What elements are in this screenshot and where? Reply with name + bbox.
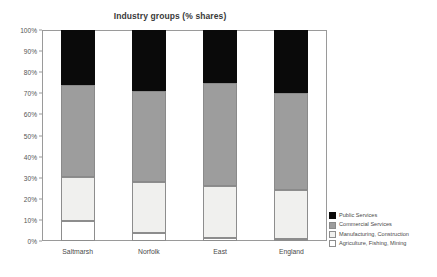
legend-swatch-icon — [329, 231, 336, 238]
bar-segment[interactable] — [132, 233, 166, 241]
legend-swatch-icon — [329, 212, 336, 219]
y-axis-tick-label: 80% — [24, 69, 37, 76]
y-axis-tick-label: 90% — [24, 48, 37, 55]
bar-segment[interactable] — [61, 221, 95, 241]
legend-item[interactable]: Public Services — [329, 211, 435, 220]
bar-segment[interactable] — [274, 93, 308, 190]
bar-segment[interactable] — [203, 186, 237, 238]
legend-item-label: Manufacturing, Construction — [339, 232, 409, 238]
bar-segment[interactable] — [203, 30, 237, 83]
legend: Public ServicesCommercial ServicesManufa… — [329, 211, 435, 249]
bar-segment[interactable] — [61, 85, 95, 177]
stacked-bar[interactable] — [61, 30, 95, 241]
stacked-bar[interactable] — [203, 30, 237, 241]
y-axis-tick-label: 0% — [27, 238, 37, 245]
bar-segment[interactable] — [61, 177, 95, 221]
x-axis-category-label: England — [279, 248, 304, 255]
bar-segment[interactable] — [61, 30, 95, 85]
legend-item[interactable]: Commercial Services — [329, 220, 435, 229]
y-axis: 0%10%20%30%40%50%60%70%80%90%100% — [0, 30, 42, 241]
bar-segment[interactable] — [132, 182, 166, 233]
chart-title: Industry groups (% shares) — [0, 11, 340, 21]
y-axis-tick-label: 100% — [20, 27, 37, 34]
bar-segment[interactable] — [203, 238, 237, 241]
stacked-bar[interactable] — [274, 30, 308, 241]
bar-group — [42, 30, 327, 241]
legend-item[interactable]: Agriculture, Fishing, Mining — [329, 239, 435, 248]
bar-column — [42, 30, 113, 241]
bar-column — [185, 30, 256, 241]
bar-segment[interactable] — [203, 83, 237, 186]
y-axis-tick-label: 70% — [24, 90, 37, 97]
legend-item-label: Commercial Services — [339, 222, 392, 228]
bar-column — [113, 30, 184, 241]
legend-swatch-icon — [329, 222, 336, 229]
bar-column — [256, 30, 327, 241]
x-axis-category-label: East — [213, 248, 227, 255]
bar-segment[interactable] — [274, 190, 308, 239]
chart-container: Industry groups (% shares) 0%10%20%30%40… — [0, 0, 437, 277]
y-axis-tick-label: 60% — [24, 111, 37, 118]
stacked-bar[interactable] — [132, 30, 166, 241]
y-axis-tick-label: 50% — [24, 132, 37, 139]
y-axis-tick-label: 30% — [24, 174, 37, 181]
bar-segment[interactable] — [274, 239, 308, 241]
legend-item-label: Public Services — [339, 213, 377, 219]
y-axis-tick-label: 20% — [24, 195, 37, 202]
y-axis-tick-label: 40% — [24, 153, 37, 160]
legend-item[interactable]: Manufacturing, Construction — [329, 230, 435, 239]
legend-swatch-icon — [329, 240, 336, 247]
legend-item-label: Agriculture, Fishing, Mining — [339, 241, 406, 247]
bar-segment[interactable] — [132, 91, 166, 182]
y-axis-tick-label: 10% — [24, 216, 37, 223]
x-axis-category-label: Saltmarsh — [62, 248, 93, 255]
bar-segment[interactable] — [274, 30, 308, 93]
x-axis-category-label: Norfolk — [138, 248, 160, 255]
bar-segment[interactable] — [132, 30, 166, 91]
x-axis: SaltmarshNorfolkEastEngland — [42, 243, 327, 261]
